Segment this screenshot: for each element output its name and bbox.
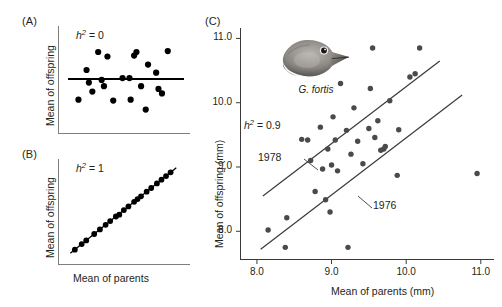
- panel-a-point: [145, 62, 151, 68]
- panel-c-point: [368, 86, 373, 91]
- panel-b-point: [144, 189, 150, 195]
- panel-c-regression-line-1976: [261, 95, 462, 249]
- panel-b-point: [159, 177, 165, 183]
- panel-c-point: [387, 98, 392, 103]
- panel-c-point: [417, 45, 422, 50]
- panel-b-point: [121, 207, 127, 213]
- panel-c-point: [330, 114, 335, 119]
- panel-b-point: [154, 181, 160, 187]
- panel-c-y-tick-label: 10.0: [202, 96, 232, 107]
- panel-b-data-points: [72, 169, 174, 252]
- panel-a-point: [143, 107, 149, 113]
- panel-b-point: [148, 185, 154, 191]
- panel-c-point: [351, 105, 356, 110]
- panel-b-point: [107, 218, 113, 224]
- panel-c-y-tick-label: 11.0: [202, 31, 232, 42]
- panel-c-point: [320, 166, 325, 171]
- panel-c-point: [360, 161, 365, 166]
- panel-c-point: [325, 146, 330, 151]
- panel-c-point: [283, 245, 288, 250]
- panel-a-point: [89, 89, 95, 95]
- panel-b-point: [126, 204, 132, 210]
- panel-c-x-tick-label: 8.0: [239, 266, 275, 277]
- panel-b-point: [168, 169, 174, 175]
- panel-c-point: [396, 127, 401, 132]
- series-label-1978: 1978: [258, 151, 281, 163]
- panel-label-b: (B): [22, 148, 37, 160]
- panel-c-point: [299, 137, 304, 142]
- panel-c-x-tick-marks: [257, 260, 481, 265]
- panel-b-point: [103, 222, 109, 228]
- panel-c-point: [338, 81, 343, 86]
- panel-a-y-axis-title: Mean of offspring: [44, 45, 56, 126]
- panel-b-plot: [58, 159, 190, 267]
- panel-c-point: [345, 245, 350, 250]
- panel-b-point: [97, 227, 103, 233]
- panel-a-point: [86, 80, 92, 86]
- series-label-1976: 1976: [373, 199, 396, 211]
- panel-c-y-tick-label: 9.0: [202, 160, 232, 171]
- panel-b-x-axis-title: Mean of parents: [73, 272, 149, 284]
- panel-c-point: [323, 197, 328, 202]
- panel-c-regression-line-1978: [263, 61, 440, 196]
- panel-c-point: [474, 171, 479, 176]
- panel-c-point: [370, 45, 375, 50]
- panel-c-point: [344, 128, 349, 133]
- panel-c-y-tick-label: 8.0: [202, 224, 232, 235]
- panel-c-point: [333, 137, 338, 142]
- panel-c-point: [335, 168, 340, 173]
- panel-a-point: [138, 83, 144, 89]
- panel-c-x-axis-title: Mean of parents (mm): [331, 285, 434, 297]
- panel-b-y-axis-title: Mean of offspring: [44, 177, 56, 258]
- panel-c-point: [383, 144, 388, 149]
- panel-b-point: [91, 231, 97, 237]
- heritability-figure: (A) Mean of offspring h2 = 0 (B) Mean of…: [0, 0, 502, 307]
- panel-c-point: [284, 215, 289, 220]
- panel-a-point: [133, 49, 139, 55]
- panel-label-a: (A): [22, 15, 37, 27]
- panel-a-point: [153, 70, 159, 76]
- panel-b-point: [72, 247, 78, 253]
- panel-a-point: [104, 53, 110, 59]
- panel-c-point: [355, 139, 360, 144]
- panel-c-plot: [240, 28, 496, 264]
- panel-a-point: [75, 97, 81, 103]
- panel-c-point: [348, 151, 353, 156]
- panel-c-point: [312, 189, 317, 194]
- panel-c-point: [265, 227, 270, 232]
- panel-a-point: [159, 90, 165, 96]
- panel-a-plot: [58, 26, 190, 136]
- panel-c-point: [329, 162, 334, 167]
- leader-line-1976: [358, 196, 372, 208]
- panel-c-regression-lines: [261, 61, 462, 249]
- panel-c-point: [327, 209, 332, 214]
- panel-c-annotation-leaders: [304, 159, 372, 208]
- panel-c-point: [412, 71, 417, 76]
- panel-a-point: [83, 67, 89, 73]
- panel-b-point: [116, 212, 122, 218]
- panel-a-point: [110, 98, 116, 104]
- panel-c-x-tick-label: 11.0: [463, 266, 499, 277]
- panel-c-data-points: [265, 45, 479, 250]
- panel-c-point: [366, 126, 371, 131]
- panel-c-x-tick-label: 9.0: [314, 266, 350, 277]
- panel-c-point: [375, 118, 380, 123]
- panel-c-point: [372, 135, 377, 140]
- panel-c-y-tick-marks: [236, 38, 241, 231]
- panel-c-point: [395, 173, 400, 178]
- panel-b-point: [79, 241, 85, 247]
- panel-b-point: [138, 193, 144, 199]
- panel-a-point: [128, 97, 134, 103]
- panel-a-point: [101, 83, 107, 89]
- panel-a-point: [95, 49, 101, 55]
- panel-a-point: [165, 48, 171, 54]
- panel-b-point: [163, 173, 169, 179]
- panel-c-point: [318, 124, 323, 129]
- panel-b-point: [83, 238, 89, 244]
- panel-a-data-points: [75, 48, 171, 113]
- panel-c-point: [407, 74, 412, 79]
- panel-c-x-tick-label: 10.0: [388, 266, 424, 277]
- panel-c-point: [305, 137, 310, 142]
- panel-label-c: (C): [205, 15, 221, 27]
